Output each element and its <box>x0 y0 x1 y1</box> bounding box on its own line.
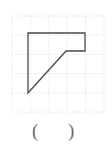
figure-svg <box>0 0 112 118</box>
answer-open-paren: ( <box>32 120 38 142</box>
worksheet: ( ) <box>0 0 112 152</box>
figure-panel <box>0 0 112 118</box>
answer-blank[interactable]: ( ) <box>0 118 112 152</box>
answer-close-paren: ) <box>68 120 74 142</box>
polygon-shape <box>28 33 85 93</box>
answer-value[interactable] <box>41 121 69 141</box>
grid-lines <box>12 16 104 112</box>
